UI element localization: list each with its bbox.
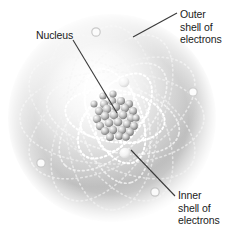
- nucleus-label: Nucleus: [36, 29, 73, 42]
- outer-shell-label: Outer shell of electrons: [180, 8, 222, 46]
- inner-shell-label: Inner shell of electrons: [178, 189, 220, 227]
- atom-diagram: Nucleus Outer shell of electrons Inner s…: [0, 0, 230, 237]
